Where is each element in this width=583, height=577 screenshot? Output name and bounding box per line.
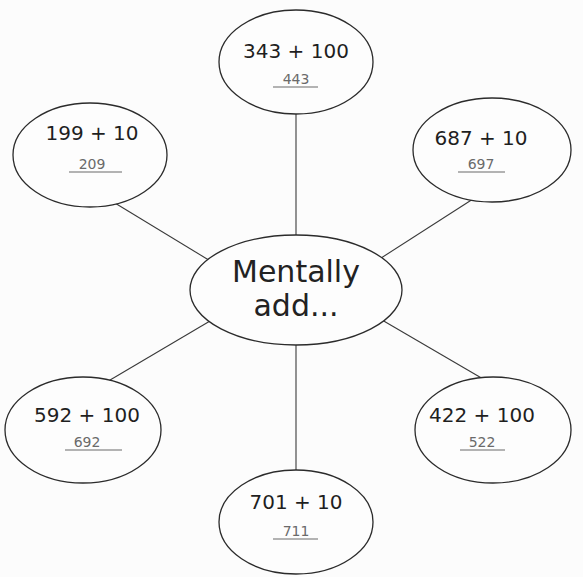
expression-text: 199 + 10 xyxy=(45,121,138,145)
mind-map-diagram: Mentally add... 343 + 100 443 199 + 10 2… xyxy=(0,0,583,577)
expression-text: 592 + 100 xyxy=(34,403,140,427)
answer-text: 692 xyxy=(74,434,101,450)
expression-text: 343 + 100 xyxy=(243,39,349,63)
answer-text: 711 xyxy=(283,523,310,539)
node-top-right: 687 + 10 697 xyxy=(413,98,571,202)
node-bottom-left: 592 + 100 692 xyxy=(5,377,161,483)
center-line-2: add... xyxy=(253,288,338,323)
node-bottom-right: 422 + 100 522 xyxy=(415,377,571,483)
expression-text: 701 + 10 xyxy=(249,490,342,514)
connector-bottom-right xyxy=(382,320,490,383)
expression-text: 422 + 100 xyxy=(429,403,535,427)
answer-text: 697 xyxy=(468,156,495,172)
answer-text: 209 xyxy=(79,156,106,172)
answer-text: 522 xyxy=(469,434,496,450)
node-top: 343 + 100 443 xyxy=(219,10,373,114)
connector-top-right xyxy=(378,199,473,260)
node-bottom: 701 + 10 711 xyxy=(219,470,373,574)
center-node: Mentally add... xyxy=(190,235,402,345)
expression-text: 687 + 10 xyxy=(434,126,527,150)
node-top-left: 199 + 10 209 xyxy=(13,103,167,207)
connector-top-left xyxy=(105,197,212,262)
center-line-1: Mentally xyxy=(232,254,360,289)
connector-bottom-left xyxy=(105,321,210,383)
answer-text: 443 xyxy=(283,71,310,87)
